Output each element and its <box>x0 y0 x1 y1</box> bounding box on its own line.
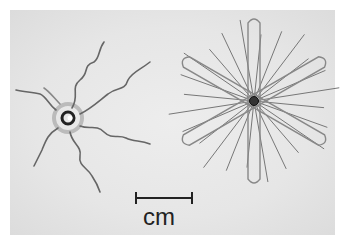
star-ray <box>254 88 339 101</box>
spiral-arm <box>34 128 58 166</box>
spiral-arm <box>80 126 150 144</box>
spiral-arm <box>44 88 60 104</box>
scale-bar-label: cm <box>143 205 175 229</box>
spiral-arm <box>80 62 150 114</box>
star-ray <box>254 101 268 182</box>
star-ray <box>169 101 254 114</box>
star-hub <box>250 97 259 106</box>
spiral-wire-device <box>16 42 150 192</box>
spiral-arm <box>72 42 104 108</box>
spiral-arm <box>70 132 100 192</box>
spiral-hub-highlight <box>68 116 73 121</box>
star-ray <box>240 20 254 101</box>
star-wire-device <box>169 19 339 183</box>
